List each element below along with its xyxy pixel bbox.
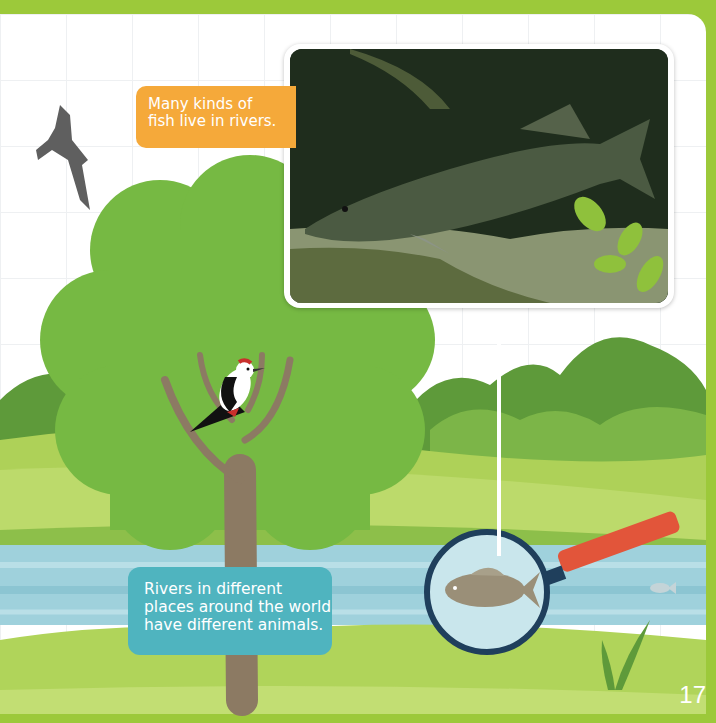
fish-caption-line-2: fish live in rivers. (148, 113, 284, 130)
rivers-caption: Rivers in different places around the wo… (128, 567, 332, 655)
eagle-silhouette-icon (36, 105, 90, 210)
book-page: Many kinds of fish live in rivers. River… (0, 0, 716, 723)
callout-pointer (497, 306, 501, 556)
fish-caption-line-1: Many kinds of (148, 96, 284, 113)
fish-caption: Many kinds of fish live in rivers. (136, 86, 296, 148)
pike-photo-frame (284, 44, 674, 308)
page-number: 17 (679, 681, 706, 709)
pike-photo (290, 49, 668, 303)
rivers-caption-line-2: places around the world (144, 599, 316, 617)
rivers-caption-line-3: have different animals. (144, 617, 316, 635)
rivers-caption-line-1: Rivers in different (144, 581, 316, 599)
